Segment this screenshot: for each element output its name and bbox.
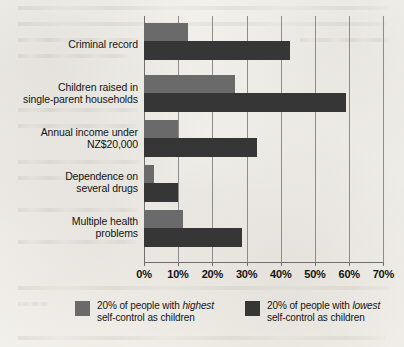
bar-annual-income-highest	[144, 120, 178, 138]
category-label-health-problems-line2: problems	[8, 227, 138, 240]
category-label-single-parent-line2: single-parent households	[8, 93, 138, 106]
bar-chart: Criminal record Children raised in singl…	[0, 0, 404, 347]
legend-highest-line1-before: 20% of people with	[97, 300, 182, 311]
chart-legend: 20% of people with highest self-control …	[0, 300, 404, 340]
bar-single-parent-highest	[144, 75, 235, 93]
legend-swatch-highest-icon	[75, 301, 90, 316]
legend-lowest-emphasis: lowest	[352, 300, 380, 311]
bar-drug-dependence-highest	[144, 165, 154, 183]
legend-swatch-lowest-icon	[245, 301, 260, 316]
gridline-60	[349, 16, 350, 262]
tick-60	[349, 262, 350, 266]
bar-criminal-record-highest	[144, 23, 188, 41]
category-label-drug-dependence-line1: Dependence on	[8, 170, 138, 183]
x-axis-line	[144, 262, 384, 263]
bar-single-parent-lowest	[144, 93, 346, 112]
tick-0	[144, 262, 145, 266]
tick-10	[178, 262, 179, 266]
category-label-annual-income-line2: NZ$20,000	[8, 138, 138, 151]
legend-lowest-line1-before: 20% of people with	[267, 300, 352, 311]
category-label-criminal-record: Criminal record	[8, 38, 138, 51]
tick-70	[383, 262, 384, 266]
legend-item-highest: 20% of people with highest self-control …	[75, 300, 214, 324]
x-tick-label-70: 70%	[363, 268, 403, 280]
legend-item-lowest: 20% of people with lowest self-control a…	[245, 300, 380, 324]
gridline-70	[383, 16, 384, 262]
legend-label-highest: 20% of people with highest self-control …	[97, 300, 214, 324]
bar-criminal-record-lowest	[144, 41, 290, 60]
legend-lowest-line2: self-control as children	[267, 312, 365, 323]
category-label-health-problems-line1: Multiple health	[8, 215, 138, 228]
category-label-single-parent-line1: Children raised in	[8, 81, 138, 94]
bar-health-problems-lowest	[144, 228, 242, 247]
legend-highest-line2: self-control as children	[97, 312, 195, 323]
bar-health-problems-highest	[144, 210, 183, 228]
tick-50	[315, 262, 316, 266]
bar-drug-dependence-lowest	[144, 183, 178, 202]
category-label-drug-dependence-line2: several drugs	[8, 182, 138, 195]
category-label-annual-income-line1: Annual income under	[8, 126, 138, 139]
tick-30	[247, 262, 248, 266]
tick-20	[212, 262, 213, 266]
bar-annual-income-lowest	[144, 138, 257, 157]
tick-40	[281, 262, 282, 266]
gridline-50	[315, 16, 316, 262]
legend-label-lowest: 20% of people with lowest self-control a…	[267, 300, 380, 324]
legend-highest-emphasis: highest	[182, 300, 214, 311]
